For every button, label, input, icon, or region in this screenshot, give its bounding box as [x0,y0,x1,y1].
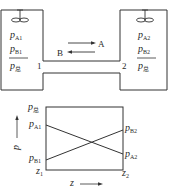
left-pA1-label: pA1 [9,29,22,41]
profile-ptotal-label: p总 [27,101,39,113]
left-stirrer-icon [12,10,29,22]
end-2-label: 2 [122,61,127,71]
right-stirrer-icon [137,10,154,22]
end-1-label: 1 [37,61,42,71]
z-axis-label: z [69,177,74,188]
arrow-A-right-icon [68,41,96,44]
right-pB2-label: pB2 [137,43,150,55]
arrow-A-label: A [98,39,105,49]
profile-pA2-label: pA2 [124,148,137,160]
p-axis-label: p [10,145,21,151]
left-ptotal-label: p总 [9,60,21,72]
pA-profile-line [46,125,123,154]
pB-profile-line [46,130,123,160]
arrow-B-label: B [57,48,63,58]
right-pA2-label: pA2 [137,29,150,41]
profile-frame [46,107,123,170]
connecting-tube [43,61,120,73]
z2-label: z2 [121,167,129,179]
z1-label: z1 [35,165,43,177]
profile-pB1-label: pB1 [28,152,41,164]
z-axis-arrow-icon [80,182,103,185]
profile-pB2-label: pB2 [124,122,137,134]
left-pB1-label: pB1 [9,43,22,55]
arrow-B-left-icon [67,50,95,53]
equimolar-counter-diffusion-diagram: pA1 pB1 p总 1 pA2 pB2 p总 2 A B p p总 pA1 p… [0,0,173,192]
right-ptotal-label: p总 [137,60,149,72]
profile-pA1-label: pA1 [28,118,41,130]
p-axis-arrow-icon [15,115,18,138]
